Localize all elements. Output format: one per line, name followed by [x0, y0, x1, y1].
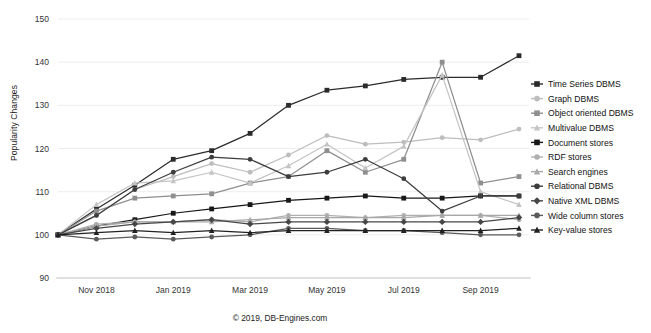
data-point-circle — [517, 232, 522, 237]
data-point-triangle — [401, 143, 407, 148]
legend-item-search-engines[interactable]: Search engines — [531, 167, 608, 177]
data-point-circle — [478, 232, 483, 237]
data-point-circle — [534, 96, 540, 102]
data-point-square — [517, 174, 522, 179]
legend-label: Object oriented DBMS — [548, 108, 634, 118]
x-tick-label: Sep 2019 — [462, 285, 499, 295]
data-point-circle — [478, 137, 483, 142]
x-tick-label: Jan 2019 — [156, 285, 191, 295]
data-point-circle — [94, 213, 99, 218]
x-tick-label: Mar 2019 — [232, 285, 268, 295]
data-point-circle — [534, 183, 540, 189]
line-chart: 90100110120130140150Nov 2018Jan 2019Mar … — [0, 0, 651, 333]
data-point-square — [534, 81, 540, 87]
data-point-square — [171, 194, 176, 199]
legend-item-object-oriented-dbms[interactable]: Object oriented DBMS — [531, 108, 634, 118]
data-point-triangle — [439, 72, 445, 77]
legend-label: Time Series DBMS — [548, 79, 621, 89]
data-point-circle — [325, 170, 330, 175]
data-point-square — [401, 157, 406, 162]
x-tick-label: Jul 2019 — [388, 285, 420, 295]
data-point-diamond — [477, 219, 483, 225]
data-point-circle — [94, 237, 99, 242]
chart-caption: © 2019, DB-Engines.com — [0, 313, 560, 323]
data-point-square — [325, 148, 330, 153]
legend-label: Key-value stores — [548, 225, 612, 235]
data-point-triangle — [286, 163, 292, 168]
data-point-circle — [286, 153, 291, 158]
data-point-square — [248, 131, 253, 136]
data-point-circle — [363, 142, 368, 147]
data-point-circle — [478, 194, 483, 199]
y-tick-label: 110 — [35, 187, 49, 197]
y-tick-label: 100 — [35, 230, 49, 240]
data-point-square — [209, 148, 214, 153]
data-point-square — [401, 196, 406, 201]
data-point-circle — [534, 154, 540, 160]
data-point-circle — [325, 133, 330, 138]
legend-item-document-stores[interactable]: Document stores — [531, 138, 613, 148]
data-point-circle — [440, 135, 445, 140]
data-point-triangle — [363, 165, 369, 170]
data-point-circle — [517, 194, 522, 199]
data-point-square — [325, 196, 330, 201]
data-point-diamond — [439, 219, 445, 225]
y-tick-label: 120 — [35, 144, 49, 154]
legend-label: Relational DBMS — [548, 181, 614, 191]
legend-label: RDF stores — [548, 152, 591, 162]
data-point-circle — [132, 235, 137, 240]
data-point-square — [132, 196, 137, 201]
series-time-series-dbms — [56, 53, 522, 237]
legend-item-wide-column-stores[interactable]: Wide column stores — [531, 211, 623, 221]
y-tick-label: 150 — [35, 14, 49, 24]
data-point-circle — [517, 127, 522, 132]
y-tick-label: 140 — [35, 57, 49, 67]
legend-label: Native XML DBMS — [548, 196, 620, 206]
legend-item-time-series-dbms[interactable]: Time Series DBMS — [531, 79, 621, 89]
data-point-circle — [209, 161, 214, 166]
legend-label: Document stores — [548, 138, 613, 148]
legend-item-native-xml-dbms[interactable]: Native XML DBMS — [531, 196, 620, 206]
data-point-square — [478, 75, 483, 80]
legend-item-key-value-stores[interactable]: Key-value stores — [531, 225, 612, 235]
legend-item-rdf-stores[interactable]: RDF stores — [531, 152, 591, 162]
x-tick-label: May 2019 — [308, 285, 346, 295]
data-point-diamond — [533, 197, 540, 204]
data-point-square — [401, 77, 406, 82]
data-point-square — [325, 88, 330, 93]
data-point-circle — [363, 157, 368, 162]
data-point-square — [534, 140, 540, 146]
data-point-square — [209, 191, 214, 196]
data-point-circle — [248, 170, 253, 175]
data-point-circle — [209, 235, 214, 240]
data-point-square — [286, 198, 291, 203]
data-point-square — [94, 209, 99, 214]
legend-item-graph-dbms[interactable]: Graph DBMS — [531, 94, 599, 104]
data-point-square — [248, 202, 253, 207]
legend-item-relational-dbms[interactable]: Relational DBMS — [531, 181, 614, 191]
data-point-circle — [286, 174, 291, 179]
y-tick-label: 130 — [35, 100, 49, 110]
data-point-square — [517, 53, 522, 58]
chart-page: Popularity Changes 90100110120130140150N… — [0, 0, 651, 333]
data-point-circle — [440, 209, 445, 214]
data-point-circle — [209, 155, 214, 160]
data-point-circle — [132, 187, 137, 192]
data-point-square — [286, 103, 291, 108]
data-point-square — [440, 196, 445, 201]
data-point-circle — [401, 176, 406, 181]
data-point-circle — [171, 237, 176, 242]
legend-label: Multivalue DBMS — [548, 123, 614, 133]
data-point-triangle — [324, 141, 330, 146]
legend-label: Wide column stores — [548, 211, 623, 221]
data-point-square — [440, 60, 445, 65]
data-point-triangle — [209, 169, 215, 174]
data-point-square — [209, 207, 214, 212]
legend-label: Search engines — [548, 167, 608, 177]
x-tick-label: Nov 2018 — [78, 285, 115, 295]
data-point-circle — [248, 157, 253, 162]
data-point-triangle — [94, 202, 100, 207]
data-point-square — [534, 110, 540, 116]
legend-item-multivalue-dbms[interactable]: Multivalue DBMS — [531, 123, 614, 133]
y-tick-label: 90 — [40, 273, 50, 283]
